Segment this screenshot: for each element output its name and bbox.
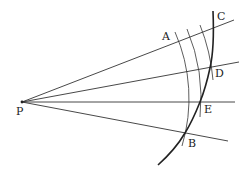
label-A: A [161,30,171,43]
label-D: D [215,67,224,80]
label-P: P [16,105,24,118]
ray-through-A [22,20,234,102]
label-B: B [188,137,196,150]
point-P [21,101,24,104]
label-E: E [204,103,212,116]
label-C: C [217,10,225,23]
arc-outer [200,25,213,80]
geometry-diagram: P A C D E B [0,0,249,177]
